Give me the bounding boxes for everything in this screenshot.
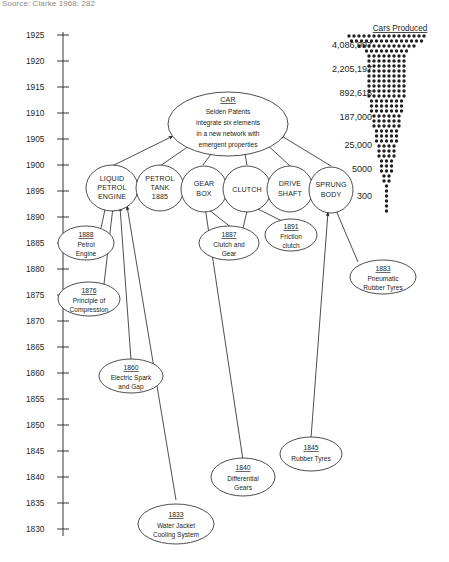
production-dot	[402, 94, 405, 97]
production-dot	[385, 39, 388, 42]
production-dot	[395, 139, 398, 142]
production-dot	[405, 49, 408, 52]
bubble-clutch[interactable]: CLUTCH	[223, 166, 271, 212]
production-dot	[380, 139, 383, 142]
bubble-differential-gears[interactable]: 1840 Differential Gears	[211, 458, 275, 496]
link-spark-to-engine	[120, 207, 131, 360]
axis-tick-label: 1845	[26, 446, 45, 456]
production-dot	[387, 34, 390, 37]
production-dot	[367, 69, 370, 72]
production-dot	[402, 59, 405, 62]
production-dot	[380, 104, 383, 107]
bubble-friction-clutch[interactable]: 1891 Friction clutch	[265, 219, 317, 251]
axis-tick-label: 1905	[26, 134, 45, 144]
bubble-drive-shaft[interactable]: DRIVE SHAFT	[267, 166, 313, 212]
production-dot	[380, 39, 383, 42]
production-dot	[390, 99, 393, 102]
element-label-line: CLUTCH	[232, 186, 262, 194]
production-dot	[382, 114, 385, 117]
axis-tick-label: 1920	[26, 56, 45, 66]
production-dot	[387, 69, 390, 72]
production-dot	[385, 164, 388, 167]
bubble-clutch-and-gear[interactable]: 1887 Clutch and Gear	[199, 226, 259, 260]
production-dot	[397, 54, 400, 57]
production-dot	[380, 109, 383, 112]
antecedent-line: Electric Spark	[111, 374, 152, 382]
production-dot	[395, 129, 398, 132]
production-dot	[397, 84, 400, 87]
production-dot	[395, 49, 398, 52]
bubble-rubber-tyres[interactable]: 1845 Rubber Tyres	[280, 437, 342, 471]
production-dot	[397, 114, 400, 117]
production-dot	[392, 69, 395, 72]
production-dot	[395, 104, 398, 107]
bubble-liquid-petrol-engine[interactable]: LIQUID PETROL ENGINE	[86, 165, 138, 211]
bubble-petrol-engine[interactable]: 1888 Petrol Engine	[58, 226, 114, 260]
axis-tick-label: 1870	[26, 316, 45, 326]
production-dot	[377, 59, 380, 62]
bubble-pneumatic-rubber-tyres[interactable]: 1883 Pneumatic Rubber Tyres	[350, 260, 416, 294]
production-dot	[372, 94, 375, 97]
element-label-line: PETROL	[97, 184, 126, 192]
production-dot	[390, 109, 393, 112]
production-dot	[397, 69, 400, 72]
production-dot	[392, 144, 395, 147]
production-dot	[390, 39, 393, 42]
production-dot	[397, 34, 400, 37]
axis-tick-label: 1835	[26, 498, 45, 508]
bubble-petrol-tank[interactable]: PETROL TANK 1885	[136, 165, 184, 211]
production-dot	[390, 129, 393, 132]
car-hub-line: Selden Patents	[206, 108, 251, 115]
antecedent-line: Petrol	[77, 241, 95, 248]
bubble-principle-of-compression[interactable]: 1876 Principle of Compression	[58, 282, 120, 316]
production-dot	[387, 79, 390, 82]
production-dot	[397, 124, 400, 127]
antecedent-year: 1883	[375, 265, 390, 272]
production-dot	[387, 54, 390, 57]
cars-produced-value: 5000	[352, 164, 372, 174]
production-dot	[382, 64, 385, 67]
production-dot	[372, 44, 375, 47]
production-dot	[382, 84, 385, 87]
production-dot	[377, 149, 380, 152]
production-dot	[400, 49, 403, 52]
production-dot	[375, 139, 378, 142]
production-dot	[417, 34, 420, 37]
element-label-line: GEAR	[194, 180, 215, 188]
production-dot	[347, 34, 350, 37]
production-dot	[370, 49, 373, 52]
production-dot	[395, 39, 398, 42]
production-dot	[397, 64, 400, 67]
axis-tick-label: 1900	[26, 160, 45, 170]
production-dot	[385, 139, 388, 142]
antecedent-line: Friction	[280, 233, 302, 240]
production-dot	[362, 34, 365, 37]
antecedent-year: 1888	[78, 231, 93, 238]
production-dot	[382, 44, 385, 47]
production-dot	[402, 54, 405, 57]
production-dot	[385, 134, 388, 137]
bubble-water-jacket-cooling-system[interactable]: 1833 Water Jacket Cooling System	[138, 504, 214, 544]
production-dot	[372, 84, 375, 87]
bubble-car-hub[interactable]: CAR Selden Patents integrate six element…	[168, 92, 288, 156]
axis-tick-label: 1925	[26, 30, 45, 40]
production-dot	[400, 99, 403, 102]
production-dot	[367, 79, 370, 82]
production-dot	[372, 69, 375, 72]
bubble-sprung-body[interactable]: SPRUNG BODY	[309, 167, 353, 213]
production-dot	[410, 39, 413, 42]
bubble-electric-spark-and-gap[interactable]: 1860 Electric Spark and Gap	[99, 359, 163, 393]
axis-tick-label: 1860	[26, 368, 45, 378]
production-dot	[375, 99, 378, 102]
production-dot	[372, 119, 375, 122]
production-dot	[395, 134, 398, 137]
antecedent-line: Rubber Tyres	[363, 284, 403, 292]
production-dot	[372, 114, 375, 117]
production-dot	[397, 59, 400, 62]
bubble-gear-box[interactable]: GEAR BOX	[181, 166, 227, 212]
production-dot	[402, 84, 405, 87]
production-dot	[402, 79, 405, 82]
antecedent-year: 1887	[221, 231, 236, 238]
production-dot	[372, 64, 375, 67]
axis-tick-label: 1890	[26, 212, 45, 222]
